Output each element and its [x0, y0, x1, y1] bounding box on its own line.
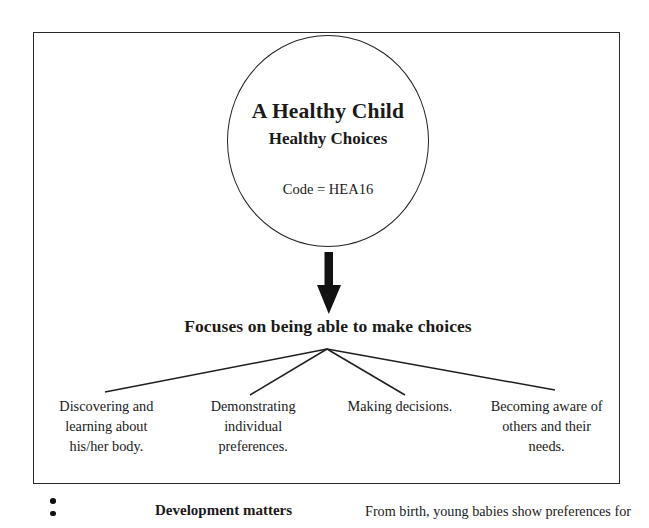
leaf-node-becoming-aware: Becoming aware of others and their needs… — [473, 396, 620, 456]
connector-lines — [33, 340, 620, 402]
focus-heading: Focuses on being able to make choices — [83, 316, 573, 337]
bullet-dot — [50, 498, 56, 504]
leaf-node-discovering: Discovering and learning about his/her b… — [33, 396, 180, 456]
circle-title: A Healthy Child — [227, 100, 429, 123]
circle-code: Code = HEA16 — [227, 181, 429, 198]
bullet-dot — [50, 511, 56, 517]
bullet-list — [41, 498, 65, 523]
document-page: A Healthy Child Healthy Choices Code = H… — [0, 0, 649, 528]
leaf-node-making-decisions: Making decisions. — [327, 396, 474, 416]
development-matters-label: Development matters — [155, 502, 292, 519]
bottom-table-row: Development matters From birth, young ba… — [33, 494, 649, 528]
circle-subtitle: Healthy Choices — [227, 130, 429, 148]
leaf-node-demonstrating: Demonstrating individual preferences. — [180, 396, 327, 456]
leaf-row: Discovering and learning about his/her b… — [33, 396, 620, 476]
down-arrow-icon — [300, 252, 360, 314]
development-matters-text: From birth, young babies show preference… — [365, 503, 631, 520]
